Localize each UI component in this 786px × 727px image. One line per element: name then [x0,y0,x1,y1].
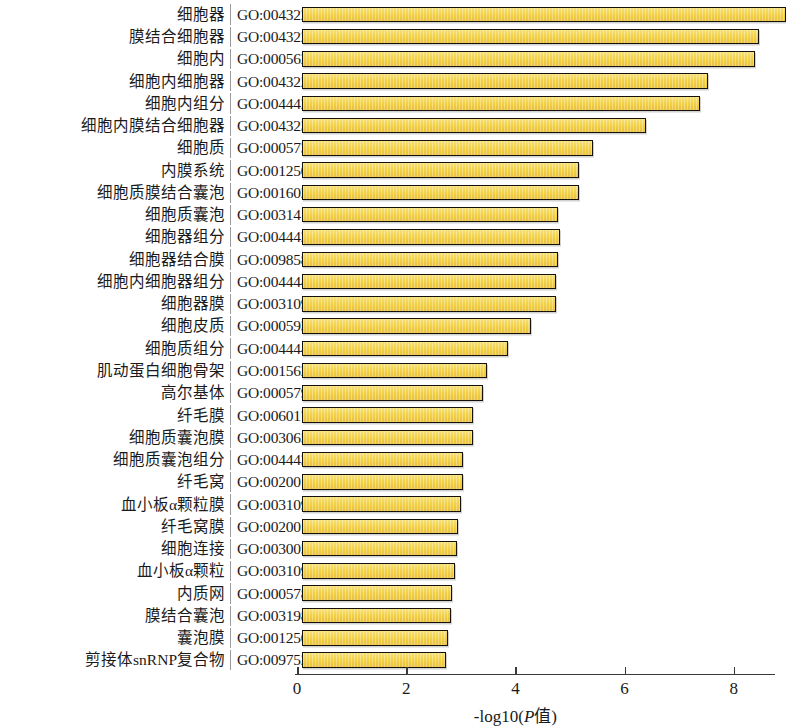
x-axis-title-suffix: ) [551,707,557,726]
go-id-label: GO:0015629 [231,363,302,379]
go-id-label: GO:0098588 [231,252,302,268]
category-label: 细胞质组分 [0,341,230,357]
go-id-label: GO:0020016 [231,474,302,490]
go-id-label: GO:0012505 [231,163,302,179]
category-label: 细胞质 [0,140,230,156]
bar [302,207,558,223]
bar [302,274,556,290]
bar-row: 剪接体snRNP复合物GO:0097525 [0,649,775,671]
bar [302,318,531,334]
bar-track [302,516,775,538]
bar-track [302,493,775,515]
bar-track [302,382,775,404]
go-id-label: GO:0005622 [231,51,302,67]
bar-row: 高尔基体GO:0005794 [0,382,775,404]
bar-track [302,48,775,70]
bar-track [302,582,775,604]
bar-track [302,627,775,649]
bar-track [302,315,775,337]
x-axis-title-cn: 值 [534,707,551,726]
bar [302,73,708,89]
bar-track [302,3,775,25]
go-id-label: GO:0060170 [231,408,302,424]
bar-row: 膜结合细胞器GO:0043227 [0,26,775,48]
category-label: 细胞内组分 [0,96,230,112]
category-label: 细胞质囊泡膜 [0,430,230,446]
bar [302,407,473,423]
bar-track [302,226,775,248]
go-id-label: GO:0005783 [231,586,302,602]
bar-track [302,337,775,359]
category-label: 细胞内细胞器组分 [0,274,230,290]
bar [302,541,457,557]
category-label: 剪接体snRNP复合物 [0,652,230,668]
category-label: 细胞内膜结合细胞器 [0,118,230,134]
go-id-label: GO:0031092 [231,497,302,513]
bar [302,496,461,512]
go-id-label: GO:0030659 [231,430,302,446]
bar-track [302,538,775,560]
bar-row: 细胞内组分GO:0044424 [0,92,775,114]
bar-row: 细胞质囊泡膜GO:0030659 [0,426,775,448]
go-id-label: GO:0031090 [231,296,302,312]
bar-row: 纤毛膜GO:0060170 [0,404,775,426]
bar-row: 细胞内膜结合细胞器GO:0043231 [0,115,775,137]
bar-row: 细胞质GO:0005737 [0,137,775,159]
category-label: 细胞器 [0,7,230,23]
bar-row: 细胞内细胞器组分GO:0044446 [0,271,775,293]
go-id-label: GO:0044424 [231,96,302,112]
bar-row: 血小板α颗粒膜GO:0031092 [0,493,775,515]
bar-track [302,471,775,493]
x-axis-tick-label: 4 [511,679,520,699]
bar [302,118,646,134]
bar-track [302,70,775,92]
category-label: 细胞器组分 [0,229,230,245]
bar [302,341,508,357]
bar-track [302,159,775,181]
go-id-label: GO:0031091 [231,563,302,579]
bar-row: 内膜系统GO:0012505 [0,159,775,181]
bar [302,51,755,67]
category-label: 血小板α颗粒 [0,563,230,579]
bar-track [302,649,775,671]
bar-rows-container: 细胞器GO:0043226膜结合细胞器GO:0043227细胞内GO:00056… [0,3,775,671]
go-id-label: GO:0044422 [231,229,302,245]
go-id-label: GO:0031988 [231,608,302,624]
category-label: 细胞质膜结合囊泡 [0,185,230,201]
category-label: 细胞内细胞器 [0,74,230,90]
category-label: 细胞内 [0,51,230,67]
bar-track [302,404,775,426]
bar-row: 细胞内细胞器GO:0043229 [0,70,775,92]
x-axis-title: -log10(P值) [474,702,557,727]
category-label: 膜结合囊泡 [0,608,230,624]
bar [302,162,579,178]
bar-row: 囊泡膜GO:0012506 [0,627,775,649]
go-id-label: GO:0005794 [231,385,302,401]
bar [302,252,558,268]
x-axis-tick-label: 0 [293,679,302,699]
bar-track [302,26,775,48]
category-label: 囊泡膜 [0,630,230,646]
bar-row: 细胞质囊泡组分GO:0044433 [0,449,775,471]
bar [302,96,700,112]
category-label: 血小板α颗粒膜 [0,497,230,513]
bar-row: 血小板α颗粒GO:0031091 [0,560,775,582]
x-axis-title-variable: P [524,707,534,726]
bar-row: 细胞器结合膜GO:0098588 [0,248,775,270]
bar-track [302,115,775,137]
bar [302,452,463,468]
go-id-label: GO:0012506 [231,630,302,646]
bar-row: 膜结合囊泡GO:0031988 [0,605,775,627]
x-axis-tick-label: 2 [402,679,411,699]
category-label: 细胞连接 [0,541,230,557]
go-id-label: GO:0044433 [231,452,302,468]
category-label: 细胞器结合膜 [0,252,230,268]
bar [302,363,487,379]
category-label: 纤毛窝膜 [0,519,230,535]
bar [302,7,786,23]
category-label: 内膜系统 [0,163,230,179]
bar-track [302,605,775,627]
go-id-label: GO:0044444 [231,341,302,357]
bar [302,563,455,579]
